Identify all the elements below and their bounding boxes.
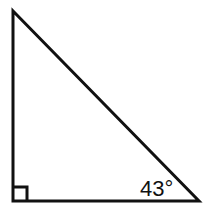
figure-canvas: 43° [0,0,211,214]
triangle-outline [13,11,199,201]
angle-label: 43° [140,176,173,201]
right-triangle-figure: 43° [0,0,211,214]
